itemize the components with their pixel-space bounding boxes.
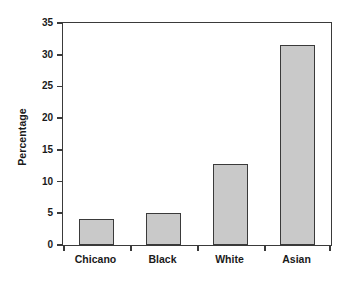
y-tick-mark — [57, 54, 63, 56]
x-tick-mark — [63, 245, 65, 251]
y-tick-label: 30 — [42, 48, 53, 62]
y-tick-label: 35 — [42, 16, 53, 30]
bar-chicano — [79, 219, 114, 245]
y-tick-mark — [57, 149, 63, 151]
bar-black — [146, 213, 181, 245]
bar-chart-figure: Percentage 05101520253035 ChicanoBlackWh… — [0, 0, 343, 283]
y-tick-mark — [57, 22, 63, 24]
y-tick-mark — [57, 117, 63, 119]
y-tick-mark — [57, 86, 63, 88]
x-tick-mark — [130, 245, 132, 251]
x-label-white: White — [215, 252, 244, 266]
x-label-chicano: Chicano — [75, 252, 116, 266]
y-tick-label: 10 — [42, 175, 53, 189]
plot-area: 05101520253035 — [62, 22, 332, 246]
y-tick-label: 5 — [47, 206, 53, 220]
bar-asian — [280, 45, 315, 245]
x-label-asian: Asian — [282, 252, 311, 266]
x-tick-mark — [264, 245, 266, 251]
x-tick-mark — [197, 245, 199, 251]
x-tick-mark — [329, 245, 331, 251]
y-tick-label: 20 — [42, 111, 53, 125]
x-label-black: Black — [148, 252, 176, 266]
y-axis-title: Percentage — [14, 92, 30, 182]
y-axis-title-label: Percentage — [16, 108, 28, 166]
bar-white — [213, 164, 248, 245]
y-tick-label: 0 — [47, 238, 53, 252]
y-tick-mark — [57, 212, 63, 214]
y-tick-label: 15 — [42, 143, 53, 157]
y-tick-label: 25 — [42, 79, 53, 93]
y-tick-mark — [57, 181, 63, 183]
